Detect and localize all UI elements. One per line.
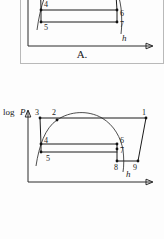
panel-a-points <box>40 0 147 23</box>
panel-c-point-7 <box>116 148 119 151</box>
panel-c-point-2 <box>56 119 59 122</box>
panel-c-yaxis-label-p: P <box>19 107 26 117</box>
panel-c-line-3-4 <box>40 118 41 144</box>
panel-c-point-5 <box>40 151 43 154</box>
panel-c-label-5: 5 <box>46 154 50 163</box>
panel-a-label-6: 6 <box>120 9 124 18</box>
panel-c-cycle <box>40 118 146 161</box>
panel-c-label-8: 8 <box>114 163 118 172</box>
panel-c-axes <box>25 110 153 185</box>
panel-a-cycle <box>40 0 145 22</box>
panel-c-point-1 <box>145 117 148 120</box>
panel-c-label-6: 6 <box>120 136 124 145</box>
panel-a-point-5 <box>40 21 43 24</box>
panel-a-saturation-dome <box>37 0 122 34</box>
panel-c-point-4 <box>40 143 43 146</box>
panel-a-line-8-6 <box>116 0 117 10</box>
panel-c-point-6 <box>116 143 119 146</box>
panel-c-label-9: 9 <box>133 163 137 172</box>
panel-a-point-6 <box>116 9 119 12</box>
panel-c-point-3 <box>39 117 42 120</box>
panel-a-point-4 <box>40 9 43 12</box>
figure-page: 4 5 6 7 8 9 h A. log P <box>0 0 164 239</box>
panel-c-point-9 <box>137 160 140 163</box>
panel-a-line-3-4 <box>40 0 41 10</box>
panel-a-label-7: 7 <box>120 20 124 29</box>
panel-c-label-2: 2 <box>52 108 56 117</box>
panel-c-xaxis-label: h <box>126 169 131 179</box>
panel-c-label-7: 7 <box>120 146 124 155</box>
panel-c-label-3: 3 <box>35 108 39 117</box>
panel-c: log P <box>0 104 164 214</box>
panel-c-saturation-dome <box>36 113 124 172</box>
panel-c-points <box>39 117 148 163</box>
panel-a-label-5: 5 <box>44 23 48 32</box>
panel-c-line-1-9 <box>138 118 146 161</box>
panel-c-label-4: 4 <box>44 136 48 145</box>
panel-a-caption: A. <box>0 48 164 60</box>
panel-c-point-8 <box>116 160 119 163</box>
panel-a-diagram: 4 5 6 7 8 9 h <box>0 0 164 84</box>
panel-c-yaxis-label-log: log <box>3 107 15 117</box>
panel-a-point-7 <box>116 21 119 24</box>
panel-a: 4 5 6 7 8 9 h A. <box>0 0 164 84</box>
panel-c-label-1: 1 <box>142 108 146 117</box>
panel-a-xaxis-label: h <box>122 33 127 43</box>
panel-c-diagram: log P <box>0 104 164 214</box>
panel-a-label-4: 4 <box>44 0 48 9</box>
